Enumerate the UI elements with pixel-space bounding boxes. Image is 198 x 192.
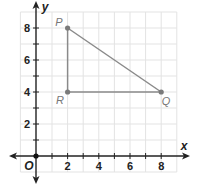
x-tick-label-8: 8 <box>158 160 164 172</box>
origin-label: O <box>24 159 34 173</box>
point-label-P: P <box>55 16 63 28</box>
origin-point <box>33 153 38 158</box>
x-tick-label-2: 2 <box>65 160 71 172</box>
y-tick-label-2: 2 <box>24 118 30 130</box>
y-tick-label-4: 4 <box>24 86 31 98</box>
point-R <box>65 89 70 94</box>
point-P <box>65 25 70 30</box>
y-tick-label-8: 8 <box>24 22 30 34</box>
x-tick-label-6: 6 <box>127 160 133 172</box>
x-axis-label: x <box>180 139 189 153</box>
coordinate-plane: 2 4 6 8 2 4 6 8 O x y P R Q <box>0 0 198 192</box>
point-label-R: R <box>56 94 64 106</box>
point-Q <box>159 89 164 94</box>
point-label-Q: Q <box>162 95 171 107</box>
y-tick-label-6: 6 <box>24 54 30 66</box>
x-tick-label-4: 4 <box>96 160 103 172</box>
y-axis-label: y <box>41 0 50 14</box>
